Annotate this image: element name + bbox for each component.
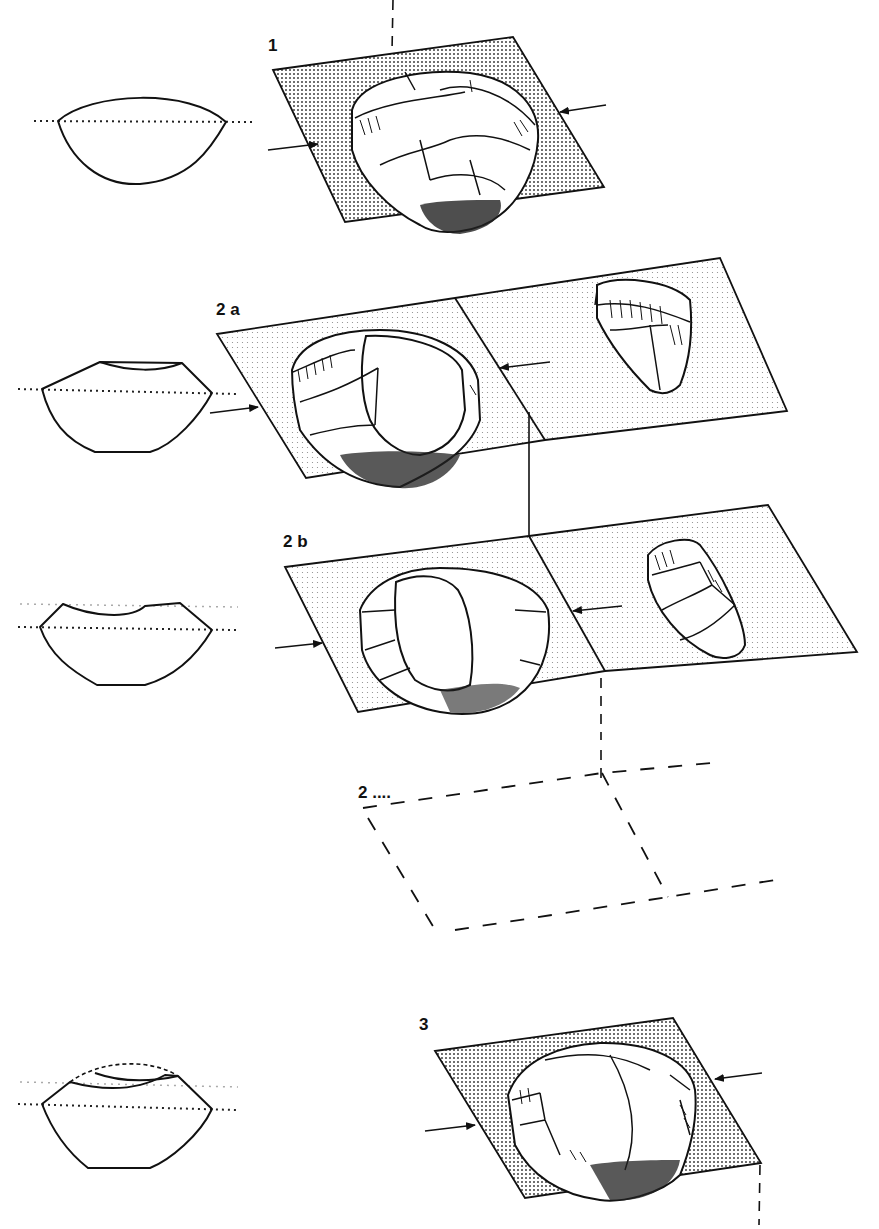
- stage-3: 3: [18, 1015, 762, 1225]
- striking-plane-axis: [18, 389, 238, 394]
- profile-outline: [58, 98, 226, 184]
- striking-plane-axis: [18, 627, 236, 630]
- stage-label-2b: 2 b: [283, 532, 308, 551]
- stage-2-continued: 2 ....: [358, 750, 775, 933]
- blow-direction-arrow-left: [275, 643, 322, 648]
- dashed-plane-divider: [602, 773, 668, 897]
- profile-section-1: [34, 98, 256, 184]
- stage-label-2a: 2 a: [216, 300, 240, 319]
- core-reduction-diagram: 1 2 a: [0, 0, 879, 1229]
- striking-plane-axis: [18, 1104, 236, 1110]
- dashed-plane-left-edge: [368, 818, 437, 933]
- blow-direction-arrow-right: [560, 105, 606, 112]
- dashed-plane-top-edge: [363, 763, 712, 808]
- profile-outline: [40, 603, 212, 685]
- vertical-axis-dashed: [759, 1165, 760, 1225]
- profile-section-3: [18, 1064, 238, 1168]
- stage-label-1: 1: [268, 36, 277, 55]
- blow-direction-arrow-left: [425, 1125, 475, 1131]
- blow-direction-arrow-right: [715, 1073, 762, 1079]
- profile-outline: [42, 1075, 212, 1168]
- stage-label-2n: 2 ....: [358, 783, 391, 802]
- blow-direction-arrow-left: [210, 407, 258, 413]
- stage-2a: 2 a: [18, 258, 787, 488]
- vertical-axis-dashed: [392, 0, 393, 52]
- stage-1: 1: [34, 0, 606, 234]
- dashed-plane-bottom-edge: [455, 880, 775, 930]
- stage-label-3: 3: [419, 1015, 428, 1034]
- profile-outline: [42, 362, 212, 452]
- profile-section-2b: [18, 603, 238, 685]
- stage-2b: 2 b: [18, 505, 857, 740]
- striking-plane-axis: [34, 121, 256, 122]
- profile-section-2a: [18, 362, 238, 452]
- previous-plane-axis: [20, 604, 238, 607]
